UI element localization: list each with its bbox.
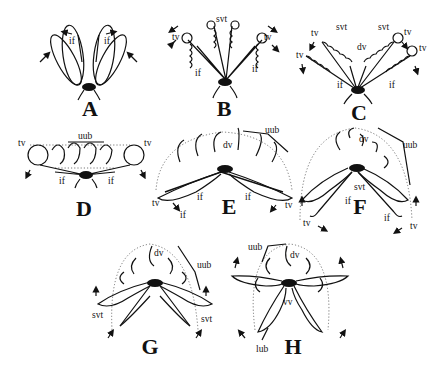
label-c-svt-right: svt: [378, 22, 389, 32]
label-c-if-left: if: [337, 80, 343, 90]
label-c-tv-2: tv: [296, 50, 303, 60]
panel-letter-a: A: [82, 98, 98, 120]
label-a-if-right: if: [104, 36, 110, 46]
label-f-if-right: if: [384, 213, 390, 223]
label-h-lub: lub: [256, 344, 268, 354]
label-e-tv-left: tv: [152, 198, 159, 208]
label-b-svt: svt: [216, 14, 227, 24]
label-d-uub: uub: [78, 131, 92, 141]
panel-letter-g: G: [141, 336, 158, 358]
label-e-if-left: if: [197, 192, 203, 202]
label-f-dv: dv: [359, 134, 369, 144]
label-e-if-right: if: [245, 192, 251, 202]
label-c-dv: dv: [357, 42, 367, 52]
label-d-tv-right: tv: [144, 138, 151, 148]
label-c-if-right: if: [389, 80, 395, 90]
label-a-if-left: if: [69, 36, 75, 46]
label-h-dv: dv: [290, 250, 300, 260]
panel-b-drawing: [171, 21, 277, 98]
label-f-svt: svt: [354, 182, 365, 192]
label-c-tv-1: tv: [311, 28, 318, 38]
label-e-if-bottom: if: [180, 210, 186, 220]
label-b-if-left: if: [195, 68, 201, 78]
label-b-if-right: if: [252, 64, 258, 74]
label-h-uub: uub: [248, 242, 262, 252]
panel-letter-e: E: [222, 196, 237, 218]
label-b-tv-right: tv: [264, 32, 271, 42]
label-e-tv-right: tv: [285, 200, 292, 210]
panel-letter-c: C: [351, 102, 367, 124]
label-g-uub: uub: [197, 260, 211, 270]
label-g-dv: dv: [154, 248, 164, 258]
label-e-uub: uub: [265, 125, 279, 135]
figure-drawings: [0, 0, 438, 371]
label-f-uub: uub: [403, 140, 417, 150]
label-c-svt-left: svt: [336, 22, 347, 32]
panel-letter-h: H: [284, 336, 301, 358]
label-f-tv-left: tv: [303, 218, 310, 228]
panel-a-drawing: [40, 24, 137, 100]
label-g-svt-left: svt: [92, 310, 103, 320]
label-f-if-left: if: [345, 196, 351, 206]
label-g-svt-right: svt: [201, 314, 212, 324]
panel-letter-b: B: [217, 98, 232, 120]
label-f-tv-right: tv: [410, 221, 417, 231]
label-e-dv: dv: [223, 140, 233, 150]
label-b-tv-left: tv: [172, 32, 179, 42]
label-h-vv: vv: [283, 297, 293, 307]
panel-letter-d: D: [76, 198, 92, 220]
panel-d-drawing: [27, 142, 144, 188]
panel-g-drawing: [96, 244, 212, 338]
label-d-if-left: if: [59, 176, 65, 186]
label-c-tv-3: tv: [404, 27, 411, 37]
label-d-tv-left: tv: [18, 138, 25, 148]
label-d-if-right: if: [108, 176, 114, 186]
label-c-tv-4: tv: [419, 43, 426, 53]
panel-letter-f: F: [353, 196, 366, 218]
